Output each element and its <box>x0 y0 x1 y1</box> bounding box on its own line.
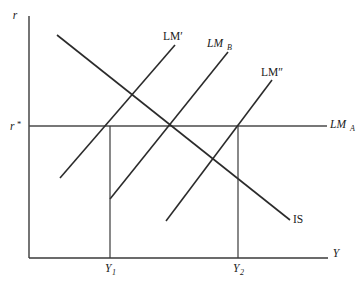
lm-a-letters: LM <box>329 118 347 130</box>
y2-tick-label: Y 2 <box>233 262 244 277</box>
is-label: IS <box>293 213 303 225</box>
lm-b-subscript: B <box>227 43 232 52</box>
y2-subscript: 2 <box>240 268 244 277</box>
is-lm-figure: r Y r * Y 1 Y 2 LM′ LM B LM″ LM A <box>0 0 360 286</box>
lm-b-letters: LM <box>206 37 224 49</box>
y1-subscript: 1 <box>112 268 116 277</box>
r-star-letter: r <box>10 120 15 132</box>
lm-double-prime-curve <box>166 80 272 221</box>
lm-prime-label: LM′ <box>163 30 183 42</box>
lm-b-label: LM B <box>206 37 232 52</box>
x-axis-label: Y <box>333 247 341 259</box>
y1-tick-label: Y 1 <box>105 262 116 277</box>
is-curve <box>57 35 290 220</box>
lm-a-subscript: A <box>349 124 355 133</box>
lm-a-label: LM A <box>329 118 355 133</box>
r-star-asterisk: * <box>17 119 21 129</box>
lm-double-prime-label: LM″ <box>261 66 283 78</box>
y-axis-label: r <box>13 9 18 21</box>
chart-svg: r Y r * Y 1 Y 2 LM′ LM B LM″ LM A <box>0 0 360 286</box>
r-star-label: r * <box>10 119 21 132</box>
lm-prime-curve <box>60 45 175 178</box>
